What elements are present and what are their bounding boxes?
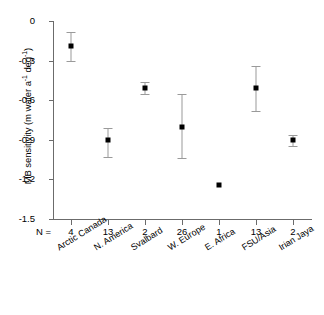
error-bar-cap bbox=[289, 146, 298, 147]
x-axis-tick bbox=[182, 220, 183, 225]
y-axis-tick bbox=[49, 100, 53, 101]
error-bar-cap bbox=[67, 61, 76, 62]
y-axis-tick bbox=[49, 140, 53, 141]
y-axis-tick-label: 0 bbox=[0, 15, 35, 26]
data-point bbox=[106, 137, 111, 142]
x-axis-tick bbox=[71, 220, 72, 225]
data-point bbox=[69, 44, 74, 49]
error-bar-cap bbox=[141, 82, 150, 83]
error-bar-cap bbox=[252, 111, 261, 112]
y-axis-tick-label: -1.5 bbox=[0, 213, 35, 224]
error-bar-cap bbox=[104, 128, 113, 129]
x-axis-tick bbox=[145, 220, 146, 225]
y-axis-tick bbox=[49, 179, 53, 180]
y-axis-tick bbox=[49, 61, 53, 62]
data-point bbox=[291, 137, 296, 142]
y-axis-tick-label: -0.6 bbox=[0, 94, 35, 105]
y-axis-tick bbox=[49, 219, 53, 220]
plot-area: 0-0.3-0.6-0.9-1.2-1.5 bbox=[53, 21, 311, 219]
y-axis-tick-label: -0.3 bbox=[0, 55, 35, 66]
x-axis-tick bbox=[219, 220, 220, 225]
y-axis-label-tail: ) bbox=[22, 48, 33, 51]
x-axis-category-labels: Arctic CanadaN. AmericaSvalbardW. Europe… bbox=[0, 244, 324, 314]
y-axis-label-sup-1: -1 bbox=[21, 75, 28, 81]
y-axis-tick-label: -0.9 bbox=[0, 134, 35, 145]
x-axis-tick bbox=[256, 220, 257, 225]
figure-scatter-mb-sensitivity: MB sensitivity (m water a-1 deg-1) 0-0.3… bbox=[0, 0, 324, 315]
data-point bbox=[254, 86, 259, 91]
error-bar-cap bbox=[178, 94, 187, 95]
x-axis-tick bbox=[293, 220, 294, 225]
error-bar-cap bbox=[104, 157, 113, 158]
y-axis-tick bbox=[49, 21, 53, 22]
error-bar-cap bbox=[141, 94, 150, 95]
error-bar-cap bbox=[289, 135, 298, 136]
y-axis-line bbox=[53, 21, 54, 220]
data-point bbox=[217, 182, 222, 187]
data-point bbox=[180, 124, 185, 129]
error-bar bbox=[108, 128, 109, 157]
error-bar-cap bbox=[252, 66, 261, 67]
y-axis-label: MB sensitivity (m water a-1 deg-1) bbox=[21, 16, 33, 216]
error-bar-cap bbox=[178, 158, 187, 159]
y-axis-tick-label: -1.2 bbox=[0, 173, 35, 184]
data-point bbox=[143, 86, 148, 91]
error-bar-cap bbox=[67, 32, 76, 33]
sample-size-legend: N = bbox=[36, 226, 51, 237]
